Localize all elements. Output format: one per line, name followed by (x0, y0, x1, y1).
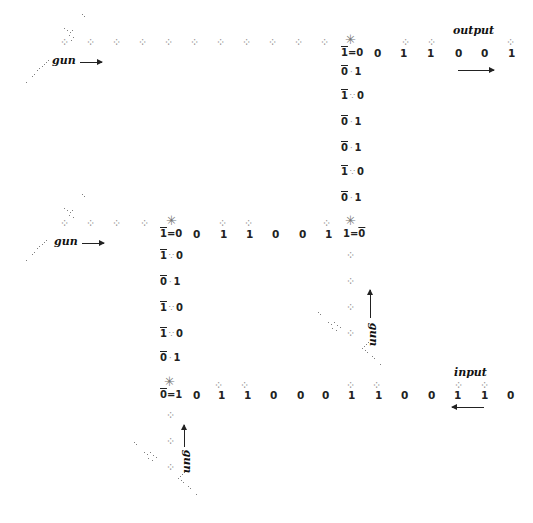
arrow-up-right-gun (370, 290, 371, 318)
bit: 0 (193, 229, 200, 240)
arrow-output (458, 70, 494, 71)
glider-gun-top (20, 10, 80, 80)
glider-gun-bottom (130, 430, 210, 510)
input-label: input (454, 366, 487, 379)
collision-middle-left: 1=0 (160, 228, 182, 239)
bit: 0 (428, 390, 435, 401)
output-label: output (453, 24, 494, 37)
bit: 0 (299, 229, 306, 240)
bit: 0 (322, 390, 329, 401)
bit: 1 (481, 390, 488, 401)
bit: 0 (270, 390, 277, 401)
bit: 0 (297, 390, 304, 401)
bit: 0 (481, 48, 488, 59)
bit: 1 (220, 229, 227, 240)
bit: 1 (244, 390, 251, 401)
arrow-right-middle-gun (82, 243, 104, 244)
bit: 0 (455, 48, 462, 59)
bit: 0 (272, 229, 279, 240)
gun-label-middle: gun (54, 235, 78, 248)
gun-label-right: gun (367, 323, 380, 347)
bit: 1 (508, 48, 515, 59)
bit: 0 (374, 48, 381, 59)
bit: 1 (218, 390, 225, 401)
collision-bottom: 0=1 (160, 389, 182, 400)
arrow-up-bottom-gun (184, 425, 185, 447)
bit: 0 (401, 390, 408, 401)
gun-label-top: gun (52, 54, 76, 67)
bit: 1 (246, 229, 253, 240)
bit: 1 (348, 390, 355, 401)
arrow-input (452, 407, 484, 408)
bit: 0 (507, 390, 514, 401)
arrow-right-top-gun (80, 62, 102, 63)
collision-middle-right: 1=0 (343, 228, 365, 239)
bit: 1 (427, 48, 434, 59)
collision-top: 1=0 (341, 47, 363, 58)
gun-label-bottom: gun (181, 450, 194, 474)
bit: 0 (193, 390, 200, 401)
bit: 1 (325, 229, 332, 240)
bit: 1 (400, 48, 407, 59)
bit: 1 (375, 390, 382, 401)
bit: 1 (454, 390, 461, 401)
glider-gun-middle (20, 190, 80, 260)
